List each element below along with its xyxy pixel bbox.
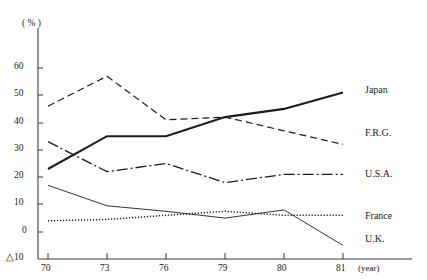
series-label-usa: U.S.A. xyxy=(365,168,393,179)
series-label-uk: U.K. xyxy=(365,233,384,244)
x-tick-label-81: 81 xyxy=(336,263,346,273)
y-tick-label-50: 50 xyxy=(14,88,24,98)
series-label-france: France xyxy=(365,210,392,221)
x-tick-label-73: 73 xyxy=(100,263,110,273)
x-tick-label-79: 79 xyxy=(218,263,228,273)
x-tick-label-76: 76 xyxy=(159,263,169,273)
series-label-frg: F.R.G. xyxy=(365,127,391,138)
y-tick-label-30: 30 xyxy=(14,143,24,153)
y-axis-unit-label: ( % ) xyxy=(22,18,41,28)
x-tick-label-80: 80 xyxy=(277,263,287,273)
y-tick-label-10: 10 xyxy=(14,197,24,207)
x-tick-label-70: 70 xyxy=(41,263,51,273)
y-tick-label-neg10: △10 xyxy=(6,251,24,262)
y-tick-label-20: 20 xyxy=(14,170,24,180)
x-axis-year-label: (year) xyxy=(358,263,379,273)
tick-label-layer: 60 50 40 30 20 10 0 △10 ( % ) 70 73 76 7… xyxy=(0,0,427,280)
line-chart: 60 50 40 30 20 10 0 △10 ( % ) 70 73 76 7… xyxy=(0,0,427,280)
y-tick-label-0: 0 xyxy=(22,225,27,235)
series-label-japan: Japan xyxy=(365,84,388,95)
y-tick-label-40: 40 xyxy=(14,116,24,126)
y-tick-label-60: 60 xyxy=(14,61,24,71)
